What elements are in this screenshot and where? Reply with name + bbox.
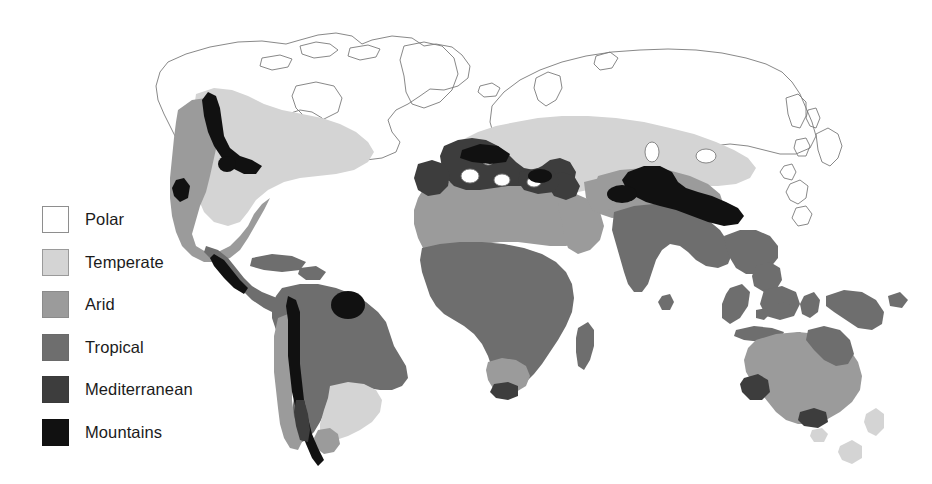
sea-cutout-central-med <box>494 174 510 186</box>
legend-swatch-arid <box>42 291 69 318</box>
legend-swatch-mountains <box>42 419 69 446</box>
region-africa <box>420 242 594 400</box>
zone-bismarck-tropical <box>888 292 908 308</box>
map-landmasses <box>156 33 908 466</box>
legend-label-temperate: Temperate <box>85 254 164 271</box>
legend-item-mediterranean[interactable]: Mediterranean <box>42 376 232 403</box>
sea-cutout-west-med <box>461 169 479 183</box>
zone-new-zealand-north-temperate <box>864 408 884 436</box>
philippines-outline-2 <box>792 206 812 226</box>
zone-new-guinea-tropical <box>826 290 884 330</box>
legend-swatch-mediterranean <box>42 376 69 403</box>
iceland-outline <box>478 83 500 97</box>
zone-sri-lanka-tropical <box>658 294 674 310</box>
legend-item-arid[interactable]: Arid <box>42 291 232 318</box>
legend-label-polar: Polar <box>85 211 124 228</box>
legend-label-arid: Arid <box>85 296 115 313</box>
zone-rocky-mountains-spot <box>218 156 236 172</box>
legend-swatch-polar <box>42 206 69 233</box>
zone-sumatra-tropical <box>722 284 750 324</box>
legend-swatch-temperate <box>42 249 69 276</box>
zone-caucasus-mountains <box>528 169 552 183</box>
philippines-outline <box>786 180 808 204</box>
world-climate-map-figure: .polar { fill:#ffffff; stroke:#7a7a7a; s… <box>0 0 932 484</box>
climate-zone-legend: Polar Temperate Arid Tropical Mediterran… <box>42 206 232 461</box>
legend-label-mediterranean: Mediterranean <box>85 381 193 398</box>
zone-tasmania-temperate <box>810 428 828 442</box>
legend-item-mountains[interactable]: Mountains <box>42 419 232 446</box>
zone-south-africa-cape-mediterranean <box>490 382 518 400</box>
zone-caribbean-islands <box>250 254 306 272</box>
region-australia <box>740 326 884 464</box>
legend-swatch-tropical <box>42 334 69 361</box>
zone-new-zealand-south-temperate <box>838 440 862 464</box>
lake-baikal-outline <box>696 149 716 163</box>
region-south-america <box>272 284 408 466</box>
legend-item-tropical[interactable]: Tropical <box>42 334 232 361</box>
zone-madagascar-tropical <box>576 322 594 370</box>
legend-item-polar[interactable]: Polar <box>42 206 232 233</box>
japan-outline <box>816 128 842 166</box>
zone-pamir-mountains <box>607 185 637 203</box>
legend-label-mountains: Mountains <box>85 424 162 441</box>
zone-guiana-highlands <box>331 291 365 319</box>
legend-item-temperate[interactable]: Temperate <box>42 249 232 276</box>
zone-antilles-islands <box>298 266 326 280</box>
legend-label-tropical: Tropical <box>85 339 144 356</box>
zone-sulawesi-tropical <box>800 292 820 318</box>
taiwan-outline <box>780 164 796 180</box>
lake-balkhash-outline <box>645 142 659 162</box>
